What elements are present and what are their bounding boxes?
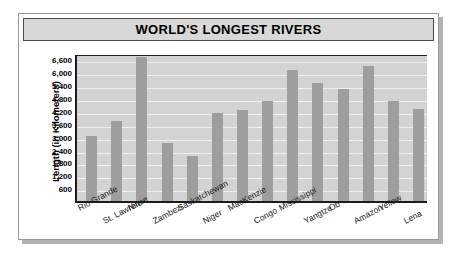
- bar: [338, 89, 349, 201]
- y-axis-tick: 1,800: [39, 160, 72, 168]
- bar: [136, 57, 147, 201]
- bar: [162, 143, 173, 201]
- bar: [312, 83, 323, 201]
- x-axis-category-label: Lena: [402, 208, 423, 226]
- bar: [287, 70, 298, 201]
- y-axis-tick-labels: 6001,2001,8002,4003,0003,6004,2004,8005,…: [39, 53, 72, 203]
- bar: [413, 109, 424, 201]
- y-axis-tick: 4,200: [39, 109, 72, 117]
- x-axis-category-label: Congo: [252, 205, 279, 226]
- y-axis-tick: 5,400: [39, 83, 72, 91]
- page-title: WORLD'S LONGEST RIVERS: [136, 22, 322, 37]
- bar: [237, 110, 248, 201]
- y-axis-tick: 6,600: [39, 57, 72, 65]
- bars-layer: [77, 56, 427, 201]
- y-axis-tick: 1,200: [39, 173, 72, 181]
- bar: [388, 101, 399, 201]
- plot-area: [75, 55, 427, 203]
- x-axis-category-label: Niger: [201, 207, 224, 225]
- y-axis-tick: 600: [39, 186, 72, 194]
- y-axis-tick: 3,000: [39, 135, 72, 143]
- x-axis-category-labels: Rio GrandeSt. LawrenceNileZambeziSaskatc…: [75, 204, 445, 250]
- chart-title-banner: WORLD'S LONGEST RIVERS: [23, 18, 434, 41]
- chart-figure: WORLD'S LONGEST RIVERS Length (in Kilome…: [18, 13, 439, 240]
- y-axis-tick: 2,400: [39, 148, 72, 156]
- bar: [86, 136, 97, 201]
- y-axis-tick: 6,000: [39, 70, 72, 78]
- bar: [363, 66, 374, 201]
- y-axis-tick: 3,600: [39, 122, 72, 130]
- y-axis-tick: 4,800: [39, 96, 72, 104]
